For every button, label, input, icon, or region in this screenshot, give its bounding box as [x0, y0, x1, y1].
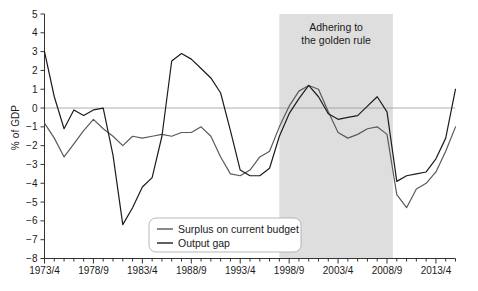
y-tick-label: 1: [32, 84, 38, 95]
x-tick-label: 2003/4: [323, 265, 354, 276]
y-tick-label: −1: [26, 121, 38, 132]
shaded-region-annotation-line1: Adhering to: [309, 21, 363, 33]
y-tick-label: 3: [32, 46, 38, 57]
chart-legend[interactable]: Surplus on current budget Output gap: [149, 218, 301, 252]
y-tick-label: −7: [26, 234, 38, 245]
line-chart: 543210−1−2−3−4−5−6−7−8 1973/41978/91983/…: [0, 0, 478, 291]
legend-label-output-gap: Output gap: [178, 237, 230, 249]
y-tick-label: −5: [26, 197, 38, 208]
y-tick-label: −8: [26, 253, 38, 264]
y-tick-label: 4: [32, 27, 38, 38]
x-axis-ticks: [45, 259, 456, 264]
legend-label-surplus: Surplus on current budget: [178, 223, 299, 235]
x-tick-label: 1998/9: [274, 265, 305, 276]
x-tick-label: 1983/4: [127, 265, 158, 276]
data-series-group: [45, 52, 456, 225]
chart-container: % of GDP 543210−1−2−3−4−5−6−7−8 1973/419…: [0, 0, 478, 291]
x-tick-label: 1973/4: [29, 265, 60, 276]
x-tick-label: 1978/9: [78, 265, 109, 276]
y-tick-label: 2: [32, 65, 38, 76]
shaded-region-annotation-line2: the golden rule: [301, 34, 371, 46]
y-tick-label: 0: [32, 103, 38, 114]
x-tick-label: 1993/4: [225, 265, 256, 276]
x-axis-tick-labels: 1973/41978/91983/41988/91993/41998/92003…: [29, 265, 451, 276]
y-axis-ticks: [41, 14, 45, 259]
x-tick-label: 1988/9: [176, 265, 207, 276]
y-tick-label: −6: [26, 215, 38, 226]
y-tick-label: −2: [26, 140, 38, 151]
x-tick-label: 2008/9: [372, 265, 403, 276]
y-tick-label: 5: [32, 9, 38, 20]
series-line-output-gap: [45, 52, 456, 225]
y-axis-tick-labels: 543210−1−2−3−4−5−6−7−8: [26, 9, 38, 265]
y-tick-label: −4: [26, 178, 38, 189]
y-tick-label: −3: [26, 159, 38, 170]
series-line-surplus-on-current-budget: [45, 85, 456, 207]
x-tick-label: 2013/4: [421, 265, 452, 276]
